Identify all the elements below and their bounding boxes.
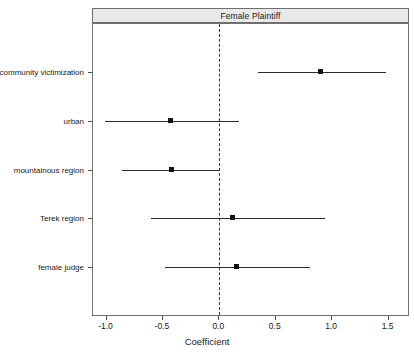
estimate-row [93, 66, 408, 80]
x-axis-tick-label: 1.0 [325, 321, 337, 331]
estimate-row [93, 261, 408, 275]
x-axis-tick-label: 1.5 [382, 321, 394, 331]
chart-title: Female Plaintiff [93, 9, 408, 24]
y-axis-tick-label: female judge [38, 263, 84, 272]
y-axis-tick [88, 218, 92, 219]
x-axis-tick [275, 316, 276, 320]
facet-strip: Female Plaintiff [92, 8, 409, 23]
estimate-row [93, 212, 408, 226]
y-axis-tick-label: Terek region [40, 214, 84, 223]
x-axis-tick-label: -1.0 [98, 321, 113, 331]
x-axis-title: Coefficient [0, 336, 414, 347]
x-axis-tick-label: 0.5 [269, 321, 281, 331]
x-axis-tick [331, 316, 332, 320]
confidence-interval-line [151, 218, 326, 219]
x-axis-tick-label: -0.5 [155, 321, 170, 331]
x-axis-tick [388, 316, 389, 320]
x-axis-tick-label: 0.0 [212, 321, 224, 331]
estimate-point [230, 215, 235, 220]
x-axis-tick [218, 316, 219, 320]
y-axis-tick-label: mountainous region [14, 165, 84, 174]
x-axis-tick [162, 316, 163, 320]
plot-panel [92, 23, 409, 316]
estimate-row [93, 164, 408, 178]
y-axis-tick [88, 121, 92, 122]
y-axis-tick [88, 267, 92, 268]
y-axis-tick [88, 170, 92, 171]
estimate-point [318, 69, 323, 74]
y-axis-tick-label: community victimization [0, 67, 84, 76]
y-axis-tick [88, 72, 92, 73]
estimate-row [93, 115, 408, 129]
forest-plot-figure: Female Plaintiff Coefficient community v… [0, 0, 414, 352]
x-axis-tick [106, 316, 107, 320]
estimate-point [234, 264, 239, 269]
estimate-point [168, 118, 173, 123]
estimate-point [169, 167, 174, 172]
y-axis-tick-label: urban [64, 116, 84, 125]
